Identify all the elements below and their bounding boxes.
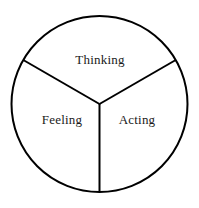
sector-label-feeling: Feeling [42,113,82,126]
sector-label-acting: Acting [119,113,156,126]
sector-label-thinking: Thinking [75,53,124,66]
three-sector-circle-diagram [0,0,199,208]
diagram-container: Thinking Feeling Acting [0,0,199,208]
